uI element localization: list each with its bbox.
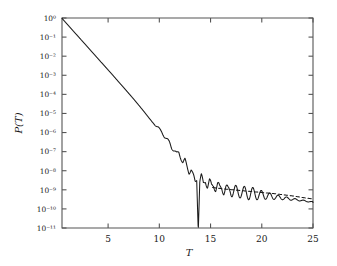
figure-container: 10⁰10⁻¹10⁻²10⁻³10⁻⁴10⁻⁵10⁻⁶10⁻⁷10⁻⁸10⁻⁹1… bbox=[0, 0, 337, 266]
x-tick-label: 10 bbox=[154, 234, 166, 244]
y-tick-label: 10⁻¹⁰ bbox=[37, 205, 56, 214]
y-tick-label: 10⁻² bbox=[40, 52, 56, 61]
y-tick-label: 10⁻⁶ bbox=[40, 128, 56, 137]
y-tick-label: 10⁻¹¹ bbox=[37, 224, 56, 233]
y-tick-label: 10⁻³ bbox=[40, 71, 56, 80]
x-tick-label: 15 bbox=[205, 234, 217, 244]
x-tick-label: 5 bbox=[105, 234, 111, 244]
x-tick-label: 25 bbox=[307, 234, 319, 244]
y-tick-label: 10⁻⁷ bbox=[40, 147, 56, 156]
y-axis-label: P(T) bbox=[13, 112, 24, 134]
x-tick-label: 20 bbox=[256, 234, 268, 244]
y-tick-label: 10⁰ bbox=[44, 14, 56, 23]
y-tick-label: 10⁻⁵ bbox=[40, 109, 56, 118]
y-tick-label: 10⁻⁹ bbox=[40, 186, 56, 195]
y-tick-label: 10⁻¹ bbox=[40, 33, 56, 42]
semilog-decay-plot: 10⁰10⁻¹10⁻²10⁻³10⁻⁴10⁻⁵10⁻⁶10⁻⁷10⁻⁸10⁻⁹1… bbox=[0, 0, 337, 266]
y-tick-label: 10⁻⁸ bbox=[40, 167, 56, 176]
y-tick-label: 10⁻⁴ bbox=[40, 90, 56, 99]
